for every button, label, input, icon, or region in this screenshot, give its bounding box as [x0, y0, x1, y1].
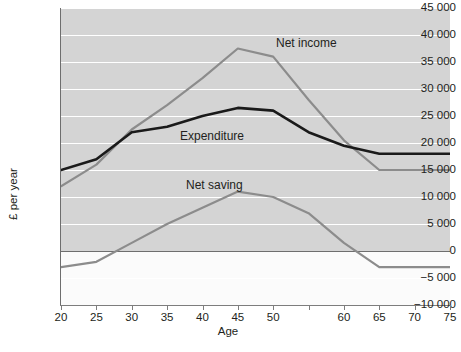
x-axis-tick-mark [415, 305, 416, 310]
y-axis-tick-label: 25 000 [400, 110, 456, 122]
y-axis-tick-label: 40 000 [400, 29, 456, 41]
x-axis-tick-label: 40 [183, 311, 223, 323]
y-axis-line [60, 8, 61, 305]
x-axis-title: Age [0, 325, 456, 337]
y-axis-title: £ per year [7, 159, 19, 229]
x-axis-tick-label: 50 [253, 311, 293, 323]
x-axis-tick-label: 45 [218, 311, 258, 323]
y-axis-tick-label: 0 [400, 245, 456, 257]
x-axis-tick-label: 30 [112, 311, 152, 323]
y-axis-tick-label: −10 000 [400, 299, 456, 311]
x-axis-tick-mark [379, 305, 380, 310]
series-line-expenditure [61, 108, 450, 170]
series-line-net-income [61, 49, 450, 187]
y-axis-tick-label: 20 000 [400, 137, 456, 149]
x-axis-tick-mark [273, 305, 274, 310]
x-axis-tick-mark [61, 305, 62, 310]
x-axis-tick-mark [344, 305, 345, 310]
x-axis-tick-label: 20 [41, 311, 81, 323]
x-axis-tick-mark [450, 305, 451, 310]
y-axis-tick-label: 5 000 [400, 218, 456, 230]
series-group [61, 8, 450, 305]
y-axis-tick-label: 15 000 [400, 164, 456, 176]
x-axis-tick-mark [167, 305, 168, 310]
x-axis-tick-label: 70 [395, 311, 435, 323]
x-axis-tick-label: 35 [147, 311, 187, 323]
y-axis-tick-label: 30 000 [400, 83, 456, 95]
series-label-net-saving: Net saving [186, 179, 243, 191]
plot-area [61, 8, 450, 305]
y-axis-tick-label: −5 000 [400, 272, 456, 284]
series-label-expenditure: Expenditure [180, 130, 244, 142]
x-axis-tick-label: 65 [359, 311, 399, 323]
x-axis-line [60, 305, 450, 306]
series-line-net-saving [61, 192, 450, 268]
x-axis-tick-label: 25 [76, 311, 116, 323]
y-axis-tick-label: 35 000 [400, 56, 456, 68]
x-axis-tick-label: 75 [430, 311, 461, 323]
x-axis-tick-mark [96, 305, 97, 310]
x-axis-tick-mark [203, 305, 204, 310]
y-axis-tick-label: 45 000 [400, 2, 456, 14]
y-axis-tick-label: 10 000 [400, 191, 456, 203]
x-axis-tick-mark [132, 305, 133, 310]
x-axis-tick-mark [309, 305, 310, 310]
x-axis-tick-label: 60 [324, 311, 364, 323]
x-axis-tick-mark [238, 305, 239, 310]
series-label-net-income: Net income [276, 37, 337, 49]
